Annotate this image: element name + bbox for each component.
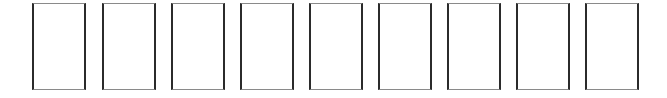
empty-box-4 <box>240 3 294 90</box>
empty-box-9 <box>585 3 639 90</box>
empty-box-row <box>0 0 667 98</box>
empty-box-8 <box>516 3 570 90</box>
empty-box-2 <box>102 3 156 90</box>
empty-box-6 <box>378 3 432 90</box>
empty-box-1 <box>32 3 86 90</box>
empty-box-5 <box>309 3 363 90</box>
empty-box-3 <box>171 3 225 90</box>
empty-box-7 <box>447 3 501 90</box>
